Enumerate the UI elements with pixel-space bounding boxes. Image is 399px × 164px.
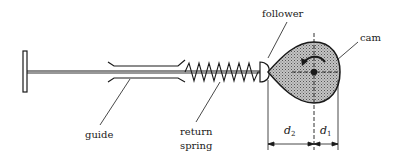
d1-subscript: 1 <box>327 130 331 138</box>
label-return-spring-line1: return <box>180 126 212 137</box>
d1-symbol: d <box>320 124 327 137</box>
cam-follower-diagram: follower cam guide return spring d2 d1 <box>0 0 399 164</box>
d2-symbol: d <box>284 124 291 137</box>
cam-shaft <box>311 69 317 75</box>
return-spring <box>185 63 261 81</box>
label-guide: guide <box>85 129 113 140</box>
label-return-spring-line2: spring <box>180 140 212 151</box>
label-follower: follower <box>262 8 303 19</box>
label-d2: d2 <box>284 125 296 140</box>
label-d1: d1 <box>320 125 332 140</box>
d2-subscript: 2 <box>291 130 295 138</box>
handle <box>23 51 27 92</box>
label-cam: cam <box>360 32 381 43</box>
